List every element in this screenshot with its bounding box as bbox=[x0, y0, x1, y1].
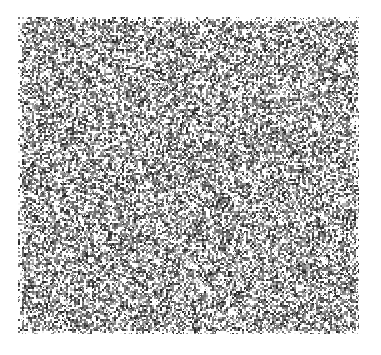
page-margin-top bbox=[0, 0, 381, 17]
random-noise-canvas bbox=[18, 17, 359, 334]
page-margin-right bbox=[359, 0, 381, 355]
page-margin-bottom bbox=[0, 334, 381, 355]
page-root bbox=[0, 0, 381, 355]
page-margin-left bbox=[0, 0, 18, 355]
